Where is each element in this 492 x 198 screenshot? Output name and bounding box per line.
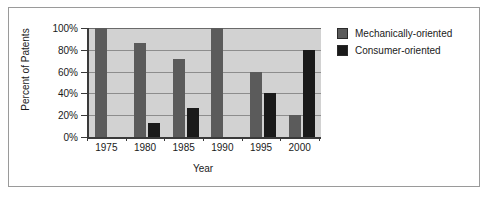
bar-group-1985: [166, 28, 205, 137]
bar-1995-mechanically-oriented: [250, 72, 262, 137]
x-axis-tick: [319, 137, 320, 141]
x-axis-tick-label: 1975: [87, 142, 126, 156]
bar-1985-mechanically-oriented: [173, 59, 185, 137]
y-axis-title: Percent of Patents: [20, 20, 31, 120]
bars-layer: [89, 28, 321, 137]
y-axis-tick-label: 0%: [64, 132, 78, 143]
legend-swatch-icon: [337, 45, 348, 56]
y-axis-tick-label: 80%: [58, 45, 78, 56]
x-axis-tick-label: 1985: [164, 142, 203, 156]
bar-2000-consumer-oriented: [303, 50, 315, 137]
x-axis-tick-label: 1990: [203, 142, 242, 156]
bar-1980-consumer-oriented: [148, 123, 160, 137]
x-axis-tick: [280, 137, 281, 141]
y-axis-tick-label: 100%: [52, 23, 78, 34]
x-axis-tick: [242, 137, 243, 141]
bar-group-1990: [205, 28, 244, 137]
y-axis-tick-labels: 100%80%60%40%20%0%: [33, 21, 78, 144]
bar-1980-mechanically-oriented: [134, 43, 146, 137]
bar-group-1980: [128, 28, 167, 137]
x-axis-tick-label: 1995: [242, 142, 281, 156]
legend: Mechanically-orientedConsumer-oriented: [337, 28, 487, 62]
bar-1995-consumer-oriented: [264, 93, 276, 137]
bar-group-2000: [282, 28, 321, 137]
bar-group-1975: [89, 28, 128, 137]
bar-1975-mechanically-oriented: [95, 28, 107, 137]
figure-frame: Percent of Patents 100%80%60%40%20%0% 19…: [8, 7, 480, 187]
legend-label: Consumer-oriented: [355, 45, 441, 56]
screenshot-root: Percent of Patents 100%80%60%40%20%0% 19…: [0, 0, 492, 198]
legend-item: Consumer-oriented: [337, 45, 487, 56]
y-axis-tick-label: 40%: [58, 88, 78, 99]
y-axis-tick-label: 20%: [58, 110, 78, 121]
x-axis-tick-labels: 197519801985199019952000: [87, 142, 319, 156]
legend-label: Mechanically-oriented: [355, 28, 452, 39]
legend-swatch-icon: [337, 28, 348, 39]
legend-item: Mechanically-oriented: [337, 28, 487, 39]
x-axis-title: Year: [87, 163, 319, 174]
x-axis-tick: [87, 137, 88, 141]
plot-area: [87, 28, 321, 139]
bar-group-1995: [244, 28, 283, 137]
x-axis-tick-label: 2000: [280, 142, 319, 156]
x-axis-tick: [164, 137, 165, 141]
x-axis-tick-label: 1980: [126, 142, 165, 156]
bar-1985-consumer-oriented: [187, 108, 199, 137]
y-axis-ticks: [80, 28, 87, 137]
bar-2000-mechanically-oriented: [289, 115, 301, 137]
y-axis-tick-label: 60%: [58, 67, 78, 78]
x-axis-tick: [126, 137, 127, 141]
bar-1990-mechanically-oriented: [211, 28, 223, 137]
x-axis-tick: [203, 137, 204, 141]
